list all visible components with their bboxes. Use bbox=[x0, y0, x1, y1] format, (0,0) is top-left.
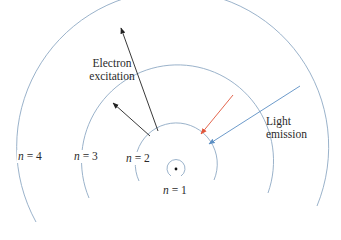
label-n4: n = 4 bbox=[17, 150, 43, 163]
n3-eq: = 3 bbox=[80, 150, 98, 162]
emission-line1: Light bbox=[266, 115, 307, 128]
label-n2: n = 2 bbox=[125, 152, 151, 165]
n2-eq: = 2 bbox=[132, 152, 150, 164]
label-light-emission: Light emission bbox=[266, 115, 307, 141]
excitation-line2: excitation bbox=[82, 70, 142, 83]
excitation-line1: Electron bbox=[82, 57, 142, 70]
label-n3: n = 3 bbox=[73, 150, 99, 163]
n4-eq: = 4 bbox=[24, 150, 42, 162]
emission-arrow-red-3-to-2 bbox=[201, 95, 233, 134]
n1-eq: = 1 bbox=[169, 184, 187, 196]
label-electron-excitation: Electron excitation bbox=[82, 57, 142, 83]
orbit-n3 bbox=[82, 65, 274, 198]
excitation-arrow-2-to-3 bbox=[113, 103, 150, 136]
emission-line2: emission bbox=[266, 128, 307, 141]
nucleus-dot bbox=[175, 168, 178, 171]
label-n1: n = 1 bbox=[163, 184, 187, 197]
